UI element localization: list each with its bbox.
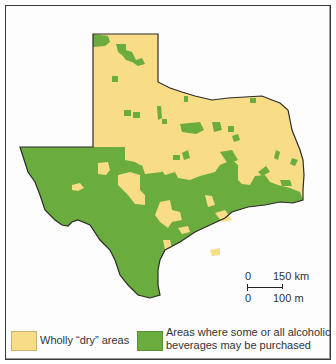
scale-km-label: 150 km [273, 270, 309, 282]
legend-label-dry: Wholly “dry” areas [40, 334, 129, 347]
scale-km-zero: 0 [245, 270, 251, 282]
scale-mi-zero: 0 [245, 292, 251, 304]
scale-bar: 0 150 km 0 100 m [245, 270, 325, 310]
legend-swatch-wet [137, 331, 163, 351]
scale-tick-right [282, 284, 283, 289]
scale-line [247, 287, 283, 288]
legend-swatch-dry [11, 331, 37, 351]
legend-label-wet: Areas where some or all alcoholic bevera… [166, 326, 331, 352]
map-legend: Wholly “dry” areas Areas where some or a… [11, 326, 331, 354]
scale-mi-label: 100 m [273, 292, 304, 304]
